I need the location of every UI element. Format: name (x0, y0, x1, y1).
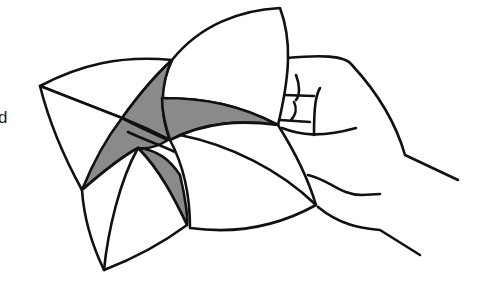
hand (280, 56, 458, 255)
fortune-teller-illustration (0, 0, 480, 283)
